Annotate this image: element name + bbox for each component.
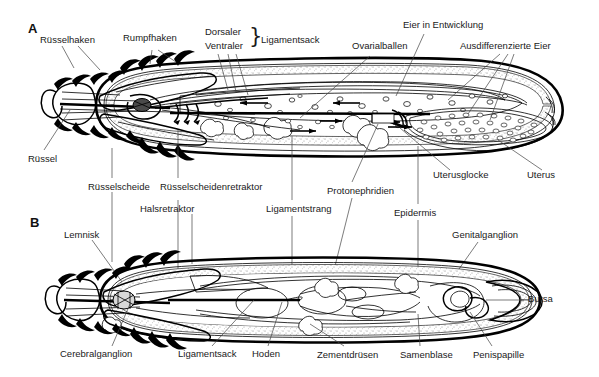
label-protonephridien: Protonephridien <box>327 185 394 196</box>
panel-b-artwork <box>45 250 542 349</box>
label-lemnisk: Lemnisk <box>64 229 99 240</box>
label-hoden: Hoden <box>252 348 280 359</box>
label-ligamentsack-a: Ligamentsack <box>261 34 320 45</box>
label-eier-in-entwicklung: Eier in Entwicklung <box>403 19 483 30</box>
label-ruesselscheide: Rüsselscheide <box>88 181 150 192</box>
figure-canvas: A B Rüsselhaken Rumpfhaken Dorsaler Vent… <box>0 0 599 377</box>
label-ausdifferenzierte-eier: Ausdifferenzierte Eier <box>460 40 551 51</box>
label-halsretraktor: Halsretraktor <box>140 203 194 214</box>
label-ruesselhaken: Rüsselhaken <box>40 34 95 45</box>
label-zementdruesen: Zementdrüsen <box>317 349 378 360</box>
label-ventraler: Ventraler <box>205 40 243 51</box>
panel-letter-b: B <box>30 215 39 230</box>
label-genitalganglion: Genitalganglion <box>452 229 518 240</box>
label-penispapille: Penispapille <box>473 349 524 360</box>
label-uterusglocke: Uterusglocke <box>433 169 488 180</box>
label-samenblase: Samenblase <box>400 349 453 360</box>
label-ligamentstrang: Ligamentstrang <box>266 203 331 214</box>
label-dorsaler: Dorsaler <box>205 26 241 37</box>
label-uterus: Uterus <box>527 169 555 180</box>
label-epidermis: Epidermis <box>394 207 436 218</box>
label-cerebralganglion: Cerebralganglion <box>60 348 132 359</box>
label-ruessel: Rüssel <box>28 153 57 164</box>
label-bursa: Bursa <box>528 293 553 304</box>
panel-a-artwork <box>41 50 562 160</box>
label-rumpfhaken: Rumpfhaken <box>123 32 177 43</box>
label-ligamentsack-b: Ligamentsack <box>178 348 237 359</box>
panel-letter-a: A <box>28 21 37 36</box>
label-ovarialballen: Ovarialballen <box>352 40 407 51</box>
label-ruesselscheidenretraktor: Rüsselscheidenretraktor <box>160 181 262 192</box>
